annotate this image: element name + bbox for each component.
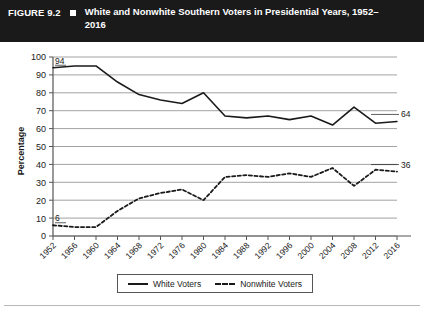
x-axis-tick-label: 2004	[317, 240, 338, 261]
end-value-label: 36	[401, 160, 411, 170]
dashed-line-icon	[215, 283, 235, 285]
y-axis-tick-label: 40	[36, 160, 46, 170]
legend-item-white-voters: White Voters	[128, 279, 201, 289]
x-axis-tick-label: 1992	[252, 240, 273, 261]
y-axis-tick-label: 60	[36, 124, 46, 134]
legend-item-nonwhite-voters: Nonwhite Voters	[215, 279, 302, 289]
x-axis-tick-label: 1976	[166, 240, 187, 261]
x-axis-tick-label: 1996	[274, 240, 295, 261]
x-axis-tick-label: 1980	[188, 240, 209, 261]
x-axis-tick-label: 2016	[381, 240, 402, 261]
y-axis-tick-label: 50	[36, 142, 46, 152]
x-axis-tick-label: 1972	[145, 240, 166, 261]
x-axis-tick-label: 2008	[338, 240, 359, 261]
chart-legend: White Voters Nonwhite Voters	[117, 274, 313, 293]
y-axis-tick-label: 70	[36, 106, 46, 116]
x-axis-tick-label: 1956	[59, 240, 80, 261]
start-value-label: 6	[55, 213, 60, 223]
start-value-label: 94	[55, 56, 65, 66]
y-axis-tick-label: 80	[36, 88, 46, 98]
y-axis-tick-label: 90	[36, 70, 46, 80]
figure-number: FIGURE 9.2	[8, 6, 61, 19]
line-chart-plot: 0102030405060708090100195219561960196419…	[0, 42, 424, 292]
figure-header: FIGURE 9.2 White and Nonwhite Southern V…	[0, 0, 424, 42]
x-axis-tick-label: 2012	[360, 240, 381, 261]
chart-container: Percentage 01020304050607080901001952195…	[0, 42, 424, 292]
legend-label-white-voters: White Voters	[153, 279, 201, 289]
figure-title: White and Nonwhite Southern Voters in Pr…	[85, 6, 385, 31]
y-axis-tick-label: 10	[36, 214, 46, 224]
y-axis-tick-label: 20	[36, 196, 46, 206]
x-axis-tick-label: 1988	[231, 240, 252, 261]
y-axis-tick-label: 100	[31, 52, 46, 62]
y-axis-tick-label: 0	[41, 231, 46, 241]
y-axis-tick-label: 30	[36, 178, 46, 188]
solid-line-icon	[128, 283, 148, 285]
x-axis-tick-label: 1960	[80, 240, 101, 261]
filled-square-icon	[70, 10, 76, 16]
x-axis-tick-label: 1964	[102, 240, 123, 261]
end-value-label: 64	[401, 109, 411, 119]
legend-label-nonwhite-voters: Nonwhite Voters	[240, 279, 302, 289]
footer-divider	[4, 305, 420, 306]
x-axis-tick-label: 1952	[37, 240, 58, 261]
x-axis-tick-label: 2000	[295, 240, 316, 261]
x-axis-tick-label: 1968	[123, 240, 144, 261]
x-axis-tick-label: 1984	[209, 240, 230, 261]
